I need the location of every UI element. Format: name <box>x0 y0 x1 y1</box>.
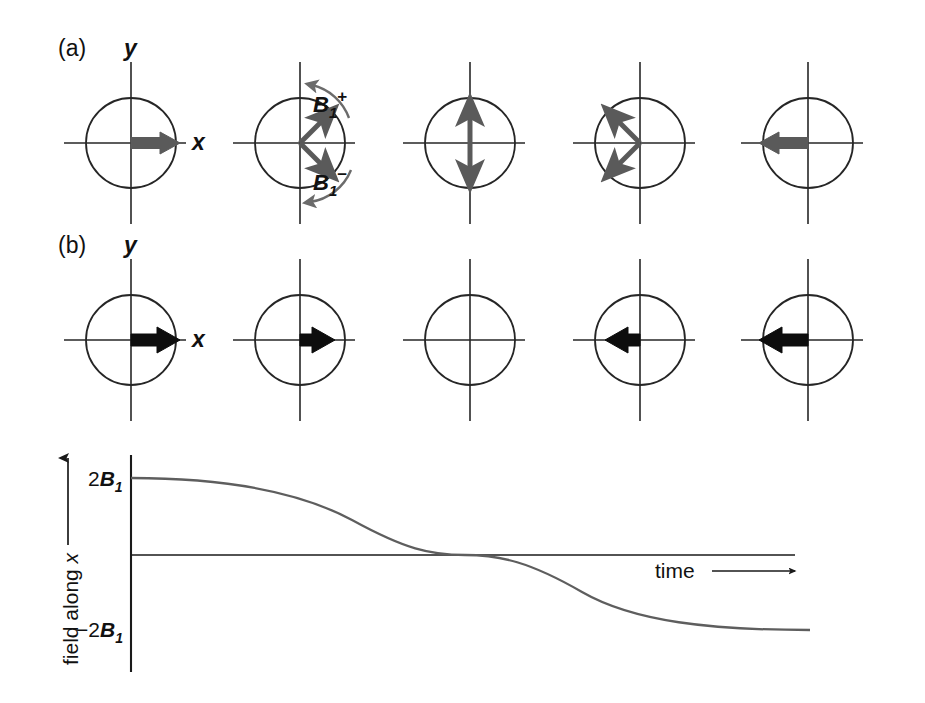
figure-canvas: (a) y x B1+ <box>0 0 925 703</box>
b1-minus-superscript: − <box>337 165 347 184</box>
b1-plus-symbol: B <box>313 92 329 117</box>
panel-a-frame-3 <box>403 62 525 224</box>
resultant-vector-arrow <box>605 327 640 353</box>
panel-b-frame-4 <box>573 259 695 421</box>
b1-minus-vector-arrow <box>614 143 640 169</box>
plot-y-axis-title: field along x <box>59 551 82 665</box>
b1-minus-vector-arrow <box>300 143 326 169</box>
plot-tick-bottom-prefix: −2 <box>76 618 100 641</box>
plot-y-axis-title-italic: x <box>59 551 82 564</box>
panel-b-label: (b) <box>58 232 86 258</box>
b1-minus-label: B1− <box>313 165 347 199</box>
panel-a-frame-5 <box>741 62 863 224</box>
b1-plus-vector-arrow <box>300 117 326 143</box>
b1-minus-subscript: 1 <box>329 182 337 199</box>
plot-data-curve <box>131 478 810 630</box>
plot-tick-top-prefix: 2 <box>88 467 100 490</box>
panel-b-frame-2 <box>233 259 355 421</box>
b1-plus-subscript: 1 <box>329 104 337 121</box>
plot-y-axis-title-text: field along <box>59 563 82 665</box>
b1-minus-symbol: B <box>313 170 329 195</box>
plot-tick-label-bottom: −2B1 <box>76 618 123 646</box>
panel-a: (a) y x B1+ <box>58 35 863 224</box>
panel-a-frame-2: B1+ B1− <box>233 62 355 224</box>
resultant-vector-arrow <box>759 132 808 154</box>
plot-x-axis-title: time <box>655 559 695 582</box>
panel-a-y-axis-label: y <box>123 35 138 61</box>
plot-tick-bottom-subscript: 1 <box>115 630 123 646</box>
resultant-vector-arrow <box>300 327 335 353</box>
panel-a-label: (a) <box>58 35 86 61</box>
b1-plus-vector-arrow <box>614 117 640 143</box>
field-vs-time-plot: field along x 2B1 −2B1 time <box>59 455 810 672</box>
plot-tick-label-top: 2B1 <box>88 467 123 495</box>
panel-b-frame-5 <box>741 259 863 421</box>
panel-a-frame-1 <box>64 62 186 224</box>
plot-tick-bottom-symbol: B <box>100 618 115 641</box>
panel-b-y-axis-label: y <box>123 232 138 258</box>
panel-b: (b) y x <box>58 232 863 421</box>
nmr-rotating-field-figure: (a) y x B1+ <box>0 0 925 703</box>
resultant-vector-arrow <box>759 327 808 353</box>
resultant-vector-arrow <box>131 327 180 353</box>
plot-tick-top-symbol: B <box>100 467 115 490</box>
panel-b-x-axis-label: x <box>190 326 206 352</box>
panel-a-frame-4 <box>573 62 695 224</box>
resultant-vector-arrow <box>131 132 180 154</box>
plot-tick-top-subscript: 1 <box>115 479 123 495</box>
panel-a-x-axis-label: x <box>190 129 206 155</box>
panel-b-frame-1 <box>64 259 186 421</box>
panel-b-frame-3 <box>403 259 525 421</box>
b1-plus-superscript: + <box>337 87 347 106</box>
